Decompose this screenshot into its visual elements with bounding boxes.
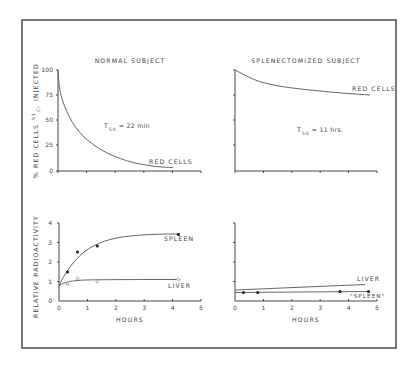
series-label-red-cells-splen: RED CELLS (352, 85, 396, 92)
x-tick-2: 2 (114, 304, 118, 311)
x-tick-0: 0 (57, 304, 61, 311)
x-axis-label-hours: HOURS (116, 316, 144, 323)
spleen-line-splenectomized (235, 292, 368, 293)
panel-splenectomized-organ-activity: 0 1 2 3 4 5 HOURS LIVER "SPLEEN" (233, 223, 385, 323)
y-tick-100: 100 (42, 66, 54, 73)
figure-frame (22, 20, 396, 348)
figure: NORMAL SUBJECT 100 75 50 25 0 % RED CELL… (0, 0, 413, 366)
x-tick-1: 1 (85, 304, 89, 311)
y-tick-0: 0 (48, 297, 52, 304)
x-tick-3: 3 (318, 304, 322, 311)
y-tick-0: 0 (49, 167, 53, 174)
y-tick-50: 50 (45, 116, 53, 123)
series-label-spleen-quoted: "SPLEEN" (350, 293, 385, 299)
t50-annotation-normal: T50= 22 min (103, 122, 150, 132)
y-tick-1: 1 (48, 278, 52, 285)
t50-annotation-splen: T50= 11 hrs. (296, 126, 343, 136)
x-tick-2: 2 (290, 304, 294, 311)
panel-title-splenectomized: SPLENECTOMIZED SUBJECT (251, 57, 360, 65)
red-cells-curve-normal (58, 70, 173, 168)
y-tick-25: 25 (45, 141, 53, 148)
series-label-red-cells: RED CELLS (149, 158, 193, 165)
liver-line-splenectomized (235, 285, 365, 291)
liver-data-points (66, 277, 180, 285)
series-label-liver: LIVER (168, 282, 191, 289)
x-tick-4: 4 (171, 304, 175, 311)
x-tick-3: 3 (142, 304, 146, 311)
y-tick-75: 75 (45, 91, 53, 98)
y-tick-2: 2 (48, 258, 52, 265)
series-label-liver-splen: LIVER (357, 275, 380, 282)
x-tick-5: 5 (375, 304, 379, 311)
x-tick-5: 5 (199, 304, 203, 311)
series-label-spleen: SPLEEN (164, 235, 194, 242)
red-cells-curve-splenectomized (235, 70, 370, 95)
panel-normal-organ-activity: 4 3 2 1 0 0 1 2 3 4 5 HOURS RELATIVE RAD… (32, 215, 203, 323)
panel-normal-red-cells: NORMAL SUBJECT 100 75 50 25 0 % RED CELL… (31, 57, 201, 178)
x-axis-label-hours: HOURS (292, 316, 320, 323)
panel-splenectomized-red-cells: SPLENECTOMIZED SUBJECT RED CELLS T50= 11… (233, 57, 396, 173)
x-tick-1: 1 (261, 304, 265, 311)
panel-title-normal: NORMAL SUBJECT (95, 57, 166, 65)
x-tick-4: 4 (347, 304, 351, 311)
liver-curve-normal (59, 280, 180, 286)
x-tick-0: 0 (233, 304, 237, 311)
y-tick-4: 4 (48, 219, 52, 226)
y-tick-3: 3 (48, 239, 52, 246)
y-axis-label-relative-radioactivity: RELATIVE RADIOACTIVITY (32, 215, 39, 318)
y-axis-label-red-cells: % RED CELLS51CrINJECTED (31, 63, 41, 178)
